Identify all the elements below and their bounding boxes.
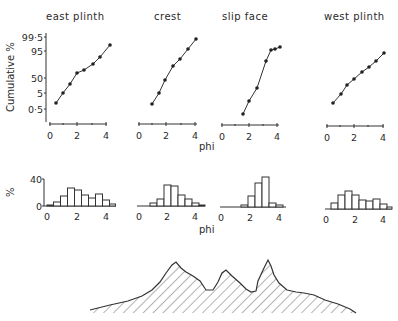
x-tick-0: 0: [136, 211, 142, 222]
x-tick-0: 0: [219, 131, 225, 142]
x-tick-4: 4: [380, 214, 386, 225]
x-tick-2: 2: [74, 211, 80, 222]
y-tick-99-5: 99·5: [22, 32, 43, 43]
histogram-slip-face: [220, 177, 286, 207]
x-tick-2: 2: [351, 132, 357, 143]
cumulative-chart-west-plinth: 0 2 4: [324, 51, 386, 143]
x-axis-label-phi-top: phi: [199, 141, 214, 152]
y-tick-95: 95: [31, 46, 43, 57]
x-tick-2: 2: [246, 131, 252, 142]
x-tick-4: 4: [103, 130, 109, 141]
x-axis-label-phi-bottom: phi: [199, 224, 214, 235]
x-tick-0: 0: [218, 212, 224, 223]
histogram-west-plinth: [325, 191, 392, 209]
histogram-crest: [137, 185, 205, 206]
x-tick-2: 2: [247, 212, 253, 223]
y-tick-5: 5: [37, 88, 43, 99]
x-tick-4: 4: [380, 132, 386, 143]
panel-title-slip-face: slip face: [222, 11, 268, 22]
cumulative-chart-crest: 0 2 4: [136, 37, 198, 141]
y-axis-label-percent: %: [5, 187, 16, 197]
cumulative-chart-slip-face: 0 2 4: [219, 45, 282, 142]
x-tick-2: 2: [164, 211, 170, 222]
x-tick-0: 0: [324, 132, 330, 143]
x-tick-4: 4: [192, 211, 198, 222]
x-tick-2: 2: [352, 214, 358, 225]
dune-profile: [90, 260, 356, 316]
x-tick-4: 4: [274, 131, 280, 142]
cumulative-chart-east-plinth: 99·5 95 50 5 0·5 0 2 4: [22, 32, 112, 141]
x-tick-0: 0: [136, 130, 142, 141]
histogram-east-plinth: [42, 179, 116, 206]
x-tick-2: 2: [74, 130, 80, 141]
panel-title-crest: crest: [154, 11, 181, 22]
panel-title-east-plinth: east plinth: [46, 11, 105, 22]
x-tick-4: 4: [276, 212, 282, 223]
y-axis-label-cumulative: Cumulative %: [5, 42, 16, 112]
figure-canvas: east plinth crest slip face west plinth …: [0, 0, 398, 321]
x-tick-0: 0: [47, 130, 53, 141]
panel-title-west-plinth: west plinth: [324, 11, 385, 22]
x-tick-0: 0: [44, 211, 50, 222]
y-tick-0: 0: [36, 201, 42, 212]
y-tick-50: 50: [31, 73, 43, 84]
x-tick-4: 4: [103, 211, 109, 222]
x-tick-2: 2: [163, 130, 169, 141]
x-tick-0: 0: [323, 214, 329, 225]
y-tick-0-5: 0·5: [28, 104, 43, 115]
y-tick-40: 40: [30, 174, 42, 185]
x-tick-4: 4: [192, 130, 198, 141]
